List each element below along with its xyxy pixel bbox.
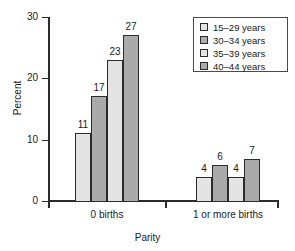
legend-item-35-39: 35–39 years bbox=[200, 47, 287, 59]
legend-label-15-29: 15–29 years bbox=[213, 22, 265, 33]
bar-value-0births-35-39: 23 bbox=[105, 46, 125, 58]
x-axis-title: Parity bbox=[0, 232, 295, 244]
legend-swatch-icon-30-34 bbox=[200, 36, 208, 44]
bar-value-0births-15-29: 11 bbox=[73, 119, 93, 131]
legend-label-35-39: 35–39 years bbox=[213, 48, 265, 59]
bar-value-1ormore-30-34: 6 bbox=[210, 151, 230, 163]
bar-value-1ormore-40-44: 7 bbox=[242, 145, 262, 157]
legend-swatch-icon-40-44 bbox=[200, 62, 208, 70]
legend-item-15-29: 15–29 years bbox=[200, 21, 287, 33]
bar-value-1ormore-15-29: 4 bbox=[194, 163, 214, 175]
x-category-label-0-births: 0 births bbox=[77, 208, 137, 221]
legend-label-30-34: 30–34 years bbox=[213, 35, 265, 46]
legend-label-40-44: 40–44 years bbox=[213, 61, 265, 72]
bar-0births-15-29 bbox=[75, 133, 91, 202]
legend: 15–29 years 30–34 years 35–39 years 40–4… bbox=[193, 17, 288, 72]
bar-0births-35-39 bbox=[107, 60, 123, 202]
bar-1ormore-40-44 bbox=[244, 159, 260, 202]
bar-0births-30-34 bbox=[91, 96, 107, 202]
x-category-label-1-or-more-births: 1 or more births bbox=[182, 208, 274, 221]
legend-swatch-icon-15-29 bbox=[200, 23, 208, 31]
legend-swatch-icon-35-39 bbox=[200, 49, 208, 57]
bar-1ormore-35-39 bbox=[228, 177, 244, 202]
bar-value-0births-30-34: 17 bbox=[89, 82, 109, 94]
legend-item-40-44: 40–44 years bbox=[200, 60, 287, 72]
bar-0births-40-44 bbox=[123, 35, 139, 202]
bar-chart: 30 20 10 0 Percent 11 17 23 27 4 6 4 7 0… bbox=[0, 0, 295, 251]
bar-value-0births-40-44: 27 bbox=[121, 21, 141, 33]
legend-item-30-34: 30–34 years bbox=[200, 34, 287, 46]
bar-value-1ormore-35-39: 4 bbox=[226, 163, 246, 175]
bar-1ormore-15-29 bbox=[196, 177, 212, 202]
